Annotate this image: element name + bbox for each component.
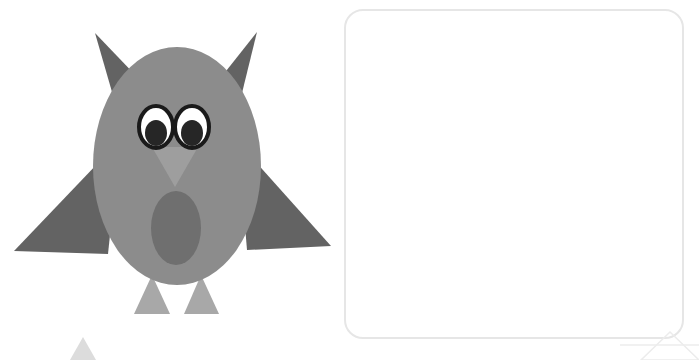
owl-belly-ellipse: [151, 191, 201, 265]
scene-svg: [0, 0, 699, 360]
owl-pupil-left: [145, 120, 167, 146]
rounded-rectangle-panel[interactable]: [345, 10, 683, 338]
drawing-canvas: [0, 0, 699, 360]
owl-pupil-right: [181, 120, 203, 146]
